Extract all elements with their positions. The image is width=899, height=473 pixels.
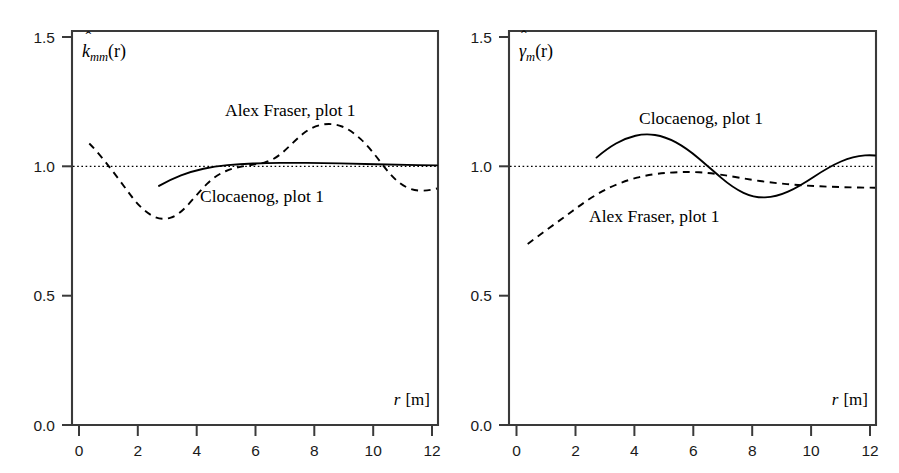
right-xlabel-unit: [m]: [843, 390, 868, 409]
right-plot-frame: [509, 31, 876, 425]
figure-container: 0.0 0.5 1.0 1.5 0 2 4 6 8 10 12 kmm(r) ˆ…: [0, 0, 899, 473]
right-curve-clocaenog: [597, 134, 876, 197]
right-annotation-alex-fraser: Alex Fraser, plot 1: [589, 206, 720, 226]
left-ytick-label-0: 0.0: [33, 417, 55, 434]
right-xtick-label-2: 4: [630, 442, 639, 459]
right-ytick-label-2: 1.0: [470, 158, 492, 175]
left-xtick-label-5: 10: [365, 442, 383, 459]
right-xtick-label-0: 0: [512, 442, 521, 459]
right-x-axis-label: r[m]: [832, 390, 868, 409]
right-ylabel-hat-accent: ˆ: [521, 27, 527, 46]
left-y-ticks: [62, 37, 72, 425]
left-xtick-label-1: 2: [133, 442, 142, 459]
left-ytick-label-2: 1.0: [33, 158, 55, 175]
right-annotation-clocaenog: Clocaenog, plot 1: [639, 108, 763, 128]
right-xtick-label-4: 8: [748, 442, 757, 459]
panel-left: 0.0 0.5 1.0 1.5 0 2 4 6 8 10 12 kmm(r) ˆ…: [0, 0, 449, 473]
left-ytick-label-3: 1.5: [33, 29, 55, 46]
left-xtick-label-0: 0: [75, 442, 84, 459]
left-xtick-label-2: 4: [192, 442, 201, 459]
right-ylabel-argument: (r): [535, 41, 553, 62]
left-ytick-label-1: 0.5: [33, 287, 55, 304]
right-ytick-label-1: 0.5: [470, 287, 492, 304]
left-y-axis-label: kmm(r) ˆ: [82, 28, 126, 64]
left-xtick-label-3: 6: [251, 442, 260, 459]
left-annotation-alex-fraser: Alex Fraser, plot 1: [225, 100, 356, 120]
right-xlabel-var: r: [832, 390, 839, 409]
left-ylabel-subscript: mm: [90, 50, 108, 64]
left-curve-clocaenog: [159, 163, 437, 186]
right-x-ticks: [517, 425, 871, 436]
left-xlabel-unit: [m]: [405, 390, 430, 409]
left-plot-frame: [72, 31, 438, 425]
right-ytick-label-3: 1.5: [470, 29, 492, 46]
left-plot-svg: 0.0 0.5 1.0 1.5 0 2 4 6 8 10 12 kmm(r) ˆ…: [0, 0, 449, 473]
left-xtick-label-4: 8: [310, 442, 319, 459]
right-ytick-label-0: 0.0: [470, 417, 492, 434]
right-y-axis-label: γm(r) ˆ: [519, 27, 553, 64]
right-xtick-label-5: 10: [802, 442, 820, 459]
left-xtick-label-6: 12: [423, 442, 440, 459]
right-xtick-label-1: 2: [571, 442, 580, 459]
right-y-ticks: [499, 37, 509, 425]
left-x-ticks: [79, 425, 432, 436]
panel-right: 0.0 0.5 1.0 1.5 0 2 4 6 8 10 12 γm(r) ˆ …: [449, 0, 899, 473]
right-xtick-label-3: 6: [689, 442, 698, 459]
right-plot-svg: 0.0 0.5 1.0 1.5 0 2 4 6 8 10 12 γm(r) ˆ …: [449, 0, 899, 473]
left-ylabel-hat-accent: ˆ: [86, 28, 92, 47]
left-xlabel-var: r: [394, 390, 401, 409]
right-ylabel-subscript: m: [526, 50, 535, 64]
left-x-axis-label: r[m]: [394, 390, 430, 409]
left-annotation-clocaenog: Clocaenog, plot 1: [200, 186, 324, 206]
right-xtick-label-6: 12: [861, 442, 878, 459]
left-ylabel-argument: (r): [108, 41, 126, 62]
